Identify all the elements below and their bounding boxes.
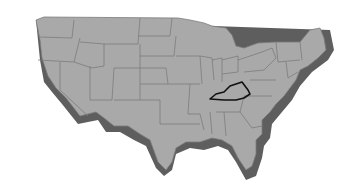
us-map [0, 0, 354, 183]
us-map-svg [0, 0, 354, 183]
